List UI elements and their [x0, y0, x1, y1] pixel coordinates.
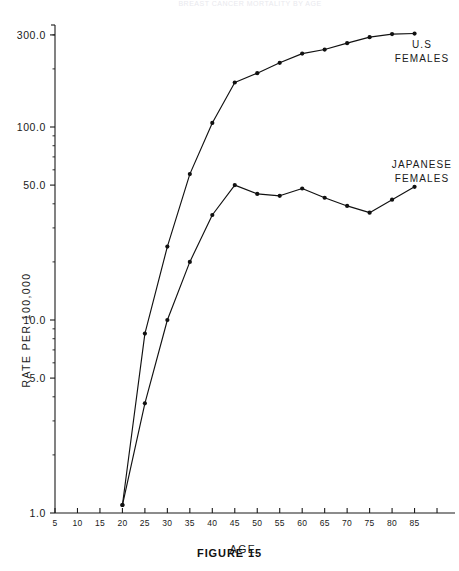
data-point-marker — [323, 196, 327, 200]
series-label-japanese-females: JAPANESEFEMALES — [392, 159, 452, 184]
x-tick-label: 40 — [207, 518, 217, 528]
series-line-japanese-females — [122, 185, 414, 505]
x-tick-label: 75 — [365, 518, 375, 528]
chart-canvas: 1.05.010.050.0100.0300.0 510152025303540… — [0, 0, 459, 571]
data-point-marker — [255, 71, 259, 75]
data-point-marker — [278, 61, 282, 65]
data-series-layer — [120, 31, 416, 507]
data-point-marker — [368, 35, 372, 39]
x-tick-label: 80 — [387, 518, 397, 528]
x-tick-label: 50 — [252, 518, 262, 528]
data-point-marker — [188, 172, 192, 176]
data-point-marker — [390, 32, 394, 36]
data-point-marker — [345, 204, 349, 208]
data-point-marker — [278, 194, 282, 198]
x-tick-label: 5 — [52, 518, 57, 528]
data-point-marker — [165, 318, 169, 322]
figure-container: BREAST CANCER MORTALITY BY AGE 1.05.010.… — [0, 0, 459, 571]
x-tick-label: 55 — [275, 518, 285, 528]
data-point-marker — [323, 47, 327, 51]
data-point-marker — [390, 198, 394, 202]
y-tick-label: 100.0 — [17, 121, 46, 133]
x-tick-label: 25 — [140, 518, 150, 528]
y-tick-label: 5.0 — [30, 372, 46, 384]
series-label-us-females: U.SFEMALES — [395, 39, 449, 64]
y-axis-title: RATE PER 100,000 — [20, 272, 32, 387]
data-point-marker — [233, 80, 237, 84]
y-tick-label: 300.0 — [17, 29, 46, 41]
figure-caption: FIGURE 15 — [0, 547, 459, 559]
data-point-marker — [210, 213, 214, 217]
series-label-line1: U.S — [412, 39, 432, 50]
data-point-marker — [412, 31, 416, 35]
x-tick-label: 20 — [117, 518, 127, 528]
data-point-marker — [210, 121, 214, 125]
x-axis-ticks: 510152025303540455055606570758085 — [52, 508, 437, 528]
y-axis-ticks: 1.05.010.050.0100.0300.0 — [17, 25, 55, 519]
data-point-marker — [300, 186, 304, 190]
series-label-line1: JAPANESE — [392, 159, 452, 170]
x-tick-label: 35 — [185, 518, 195, 528]
data-point-marker — [165, 245, 169, 249]
data-point-marker — [412, 185, 416, 189]
y-tick-label: 1.0 — [30, 507, 46, 519]
x-tick-label: 10 — [72, 518, 82, 528]
x-tick-label: 60 — [297, 518, 307, 528]
data-point-marker-origin — [120, 503, 124, 507]
series-label-line2: FEMALES — [395, 173, 449, 184]
x-tick-label: 30 — [162, 518, 172, 528]
data-point-marker — [233, 183, 237, 187]
data-point-marker — [345, 41, 349, 45]
x-tick-label: 70 — [342, 518, 352, 528]
data-point-marker — [255, 192, 259, 196]
data-point-marker — [368, 211, 372, 215]
y-tick-label: 50.0 — [23, 179, 46, 191]
series-label-line2: FEMALES — [395, 53, 449, 64]
chart-axes — [55, 25, 455, 513]
x-tick-label: 15 — [95, 518, 105, 528]
series-line-us-females — [122, 34, 414, 505]
series-labels-layer: U.SFEMALESJAPANESEFEMALES — [392, 39, 452, 184]
x-tick-label: 85 — [410, 518, 420, 528]
x-tick-label: 45 — [230, 518, 240, 528]
data-point-marker — [188, 260, 192, 264]
data-point-marker — [300, 52, 304, 56]
x-tick-label: 65 — [320, 518, 330, 528]
data-point-marker — [143, 332, 147, 336]
data-point-marker — [143, 401, 147, 405]
